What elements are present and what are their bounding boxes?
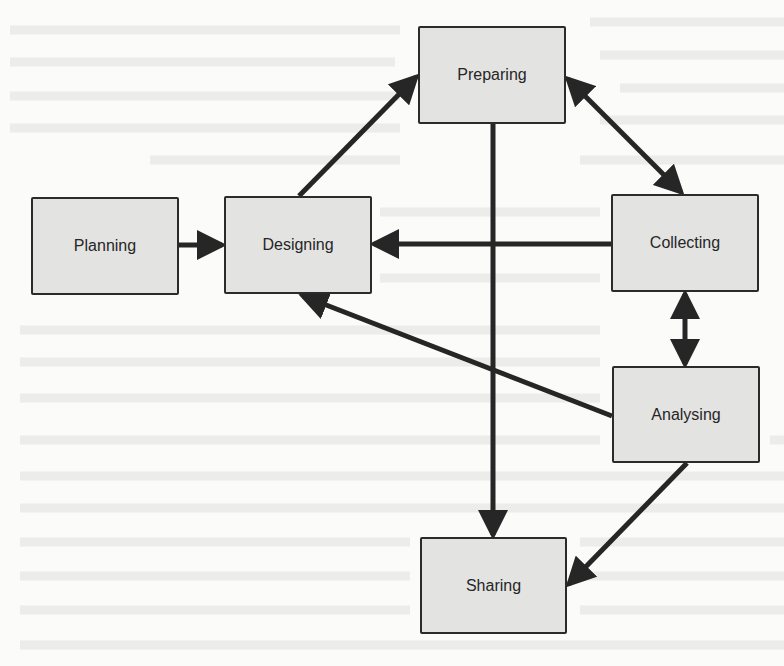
node-collecting[interactable]: Collecting	[611, 194, 759, 292]
node-preparing[interactable]: Preparing	[418, 26, 566, 124]
node-label: Sharing	[466, 577, 521, 595]
diagram-edges	[0, 0, 784, 666]
node-label: Preparing	[457, 66, 526, 84]
node-label: Analysing	[651, 406, 720, 424]
node-sharing[interactable]: Sharing	[420, 537, 567, 634]
edge-preparing-collecting	[568, 79, 681, 192]
node-planning[interactable]: Planning	[31, 197, 179, 295]
node-label: Collecting	[650, 234, 720, 252]
edge-designing-to-preparing	[299, 77, 416, 196]
node-designing[interactable]: Designing	[224, 196, 372, 294]
edge-analysing-to-designing	[303, 296, 612, 416]
node-label: Designing	[262, 236, 333, 254]
node-analysing[interactable]: Analysing	[612, 366, 760, 463]
edge-analysing-to-sharing	[569, 463, 687, 584]
node-label: Planning	[74, 237, 136, 255]
